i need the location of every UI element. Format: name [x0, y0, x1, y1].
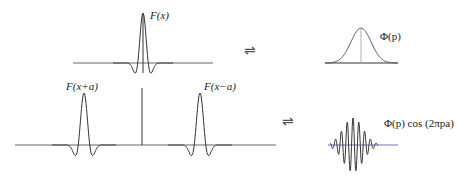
fourier-shift-diagram [0, 0, 472, 186]
label-f-x-minus-a: F(x−a) [204, 80, 236, 92]
plot-shifted-pair [15, 88, 276, 156]
label-phi-p: Φ(p) [380, 30, 401, 42]
transform-arrow-bottom: ⇌ [282, 113, 294, 129]
label-f-x-plus-a: F(x+a) [66, 80, 98, 92]
curve-f-x-plus-a [52, 93, 116, 156]
curve-phi-cos [330, 118, 378, 171]
plot-f-x [73, 13, 213, 73]
transform-arrow-top: ⇌ [244, 42, 256, 58]
label-f-x: F(x) [150, 9, 169, 21]
curve-f-x-minus-a [168, 93, 232, 156]
label-phi-cos: Φ(p) cos (2πpa) [384, 117, 454, 129]
